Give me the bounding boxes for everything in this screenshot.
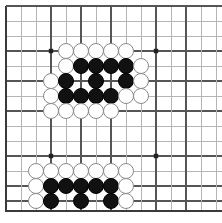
star-point xyxy=(154,49,158,53)
go-board-surface[interactable] xyxy=(0,0,222,223)
white-stone[interactable] xyxy=(88,163,104,179)
black-stone[interactable] xyxy=(88,88,104,104)
white-stone[interactable] xyxy=(28,193,44,209)
black-stone[interactable] xyxy=(73,193,89,209)
black-stone[interactable] xyxy=(103,178,119,194)
black-stone[interactable] xyxy=(73,58,89,74)
black-stone[interactable] xyxy=(58,73,74,89)
white-stone[interactable] xyxy=(73,163,89,179)
white-stone[interactable] xyxy=(73,43,89,59)
black-stone[interactable] xyxy=(88,73,104,89)
white-stone[interactable] xyxy=(28,178,44,194)
white-stone[interactable] xyxy=(118,163,134,179)
black-stone[interactable] xyxy=(73,88,89,104)
white-stone[interactable] xyxy=(43,103,59,119)
white-stone[interactable] xyxy=(103,163,119,179)
white-stone[interactable] xyxy=(118,178,134,194)
black-stone[interactable] xyxy=(118,73,134,89)
white-stone[interactable] xyxy=(43,163,59,179)
white-stone[interactable] xyxy=(103,103,119,119)
star-point xyxy=(154,154,158,158)
white-stone[interactable] xyxy=(118,193,134,209)
star-point xyxy=(49,49,53,53)
black-stone[interactable] xyxy=(103,58,119,74)
white-stone[interactable] xyxy=(73,103,89,119)
white-stone[interactable] xyxy=(103,43,119,59)
white-stone[interactable] xyxy=(58,58,74,74)
white-stone[interactable] xyxy=(28,163,44,179)
white-stone[interactable] xyxy=(118,88,134,104)
black-stone[interactable] xyxy=(118,58,134,74)
white-stone[interactable] xyxy=(118,43,134,59)
white-stone[interactable] xyxy=(58,43,74,59)
white-stone[interactable] xyxy=(133,88,149,104)
black-stone[interactable] xyxy=(58,178,74,194)
white-stone[interactable] xyxy=(133,73,149,89)
black-stone[interactable] xyxy=(103,193,119,209)
black-stone[interactable] xyxy=(43,178,59,194)
white-stone[interactable] xyxy=(88,103,104,119)
white-stone[interactable] xyxy=(58,163,74,179)
black-stone[interactable] xyxy=(73,178,89,194)
black-stone[interactable] xyxy=(43,193,59,209)
white-stone[interactable] xyxy=(133,58,149,74)
black-stone[interactable] xyxy=(58,88,74,104)
white-stone[interactable] xyxy=(43,88,59,104)
go-board-root xyxy=(0,0,222,223)
white-stone[interactable] xyxy=(43,73,59,89)
white-stone[interactable] xyxy=(88,43,104,59)
black-stone[interactable] xyxy=(88,58,104,74)
star-point xyxy=(49,154,53,158)
white-stone[interactable] xyxy=(58,103,74,119)
black-stone[interactable] xyxy=(103,88,119,104)
black-stone[interactable] xyxy=(88,178,104,194)
